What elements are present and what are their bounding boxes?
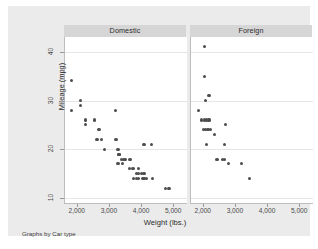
data-point <box>223 143 226 146</box>
data-point <box>132 167 135 170</box>
y-tick-mark <box>60 149 64 150</box>
x-tick-label: 2,000 <box>62 207 92 214</box>
data-point <box>116 148 119 151</box>
data-point <box>98 128 101 131</box>
data-point <box>204 99 207 102</box>
data-point <box>203 75 206 78</box>
data-point <box>145 177 148 180</box>
data-point <box>121 162 124 165</box>
data-point <box>96 138 99 141</box>
panel-title-foreign: Foreign <box>190 25 312 37</box>
data-point <box>213 133 216 136</box>
data-point <box>227 162 230 165</box>
data-point <box>115 138 118 141</box>
gridline <box>65 101 187 102</box>
data-point <box>215 158 218 161</box>
x-tick-label: 4,000 <box>126 207 156 214</box>
data-point <box>70 109 73 112</box>
plot-region-foreign <box>190 37 313 204</box>
gridline <box>191 52 313 53</box>
x-tick-label: 2,000 <box>188 207 218 214</box>
x-axis-title: Weight (lbs.) <box>20 218 310 227</box>
data-point <box>116 162 119 165</box>
data-point <box>207 118 210 121</box>
data-point <box>151 177 154 180</box>
data-point <box>123 158 126 161</box>
data-point <box>142 143 145 146</box>
gridline <box>191 149 313 150</box>
y-tick-label: 10 <box>47 190 54 206</box>
data-point <box>114 109 117 112</box>
y-axis-title: Mileage (mpg) <box>57 42 66 132</box>
data-point <box>100 138 103 141</box>
graph-note: Graphs by Car type <box>22 230 76 237</box>
data-point <box>197 109 200 112</box>
gridline <box>191 198 313 199</box>
data-point <box>142 172 145 175</box>
stata-scatter-graph: Domestic Foreign Mileage (mpg) Weight (l… <box>0 0 318 249</box>
data-point <box>240 162 243 165</box>
data-point <box>203 45 206 48</box>
panel-title-domestic: Domestic <box>64 25 186 37</box>
x-tick-label: 5,000 <box>158 207 188 214</box>
data-point <box>207 94 210 97</box>
data-point <box>205 143 208 146</box>
gridline <box>191 101 313 102</box>
data-point <box>103 148 106 151</box>
data-point <box>209 128 212 131</box>
data-point <box>129 158 132 161</box>
y-tick-mark <box>60 52 64 53</box>
data-point <box>79 99 82 102</box>
y-tick-mark <box>60 198 64 199</box>
data-point <box>224 123 227 126</box>
data-point <box>84 123 87 126</box>
y-tick-mark <box>60 101 64 102</box>
data-point <box>118 153 121 156</box>
data-point <box>164 187 167 190</box>
data-point <box>84 118 87 121</box>
x-tick-label: 3,000 <box>220 207 250 214</box>
gridline <box>65 198 187 199</box>
graph-inner-region: Domestic Foreign Mileage (mpg) Weight (l… <box>20 10 310 236</box>
data-point <box>137 167 140 170</box>
graph-canvas: Domestic Foreign Mileage (mpg) Weight (l… <box>8 6 310 236</box>
data-point <box>93 118 96 121</box>
x-tick-label: 4,000 <box>252 207 282 214</box>
plot-region-domestic <box>64 37 187 204</box>
data-point <box>150 143 153 146</box>
data-point <box>248 177 251 180</box>
x-tick-label: 5,000 <box>284 207 314 214</box>
data-point <box>167 187 170 190</box>
y-tick-label: 40 <box>47 43 54 59</box>
data-point <box>223 158 226 161</box>
data-point <box>79 104 82 107</box>
data-point <box>137 177 140 180</box>
data-point <box>70 79 73 82</box>
gridline <box>65 149 187 150</box>
x-tick-label: 3,000 <box>94 207 124 214</box>
y-tick-label: 30 <box>47 92 54 108</box>
gridline <box>65 52 187 53</box>
y-tick-label: 20 <box>47 141 54 157</box>
